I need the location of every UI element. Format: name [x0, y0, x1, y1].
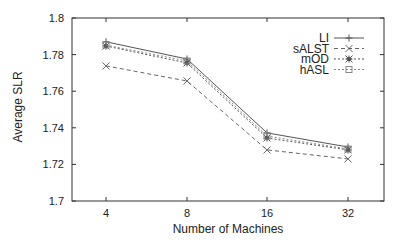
y-axis: 1.71.721.741.761.781.8 [43, 12, 384, 207]
legend-label: hASL [300, 63, 330, 77]
y-tick-label: 1.76 [43, 85, 64, 97]
series-sALST [103, 62, 352, 162]
y-tick-label: 1.78 [43, 49, 64, 61]
star-marker-core [104, 44, 108, 48]
x-tick-label: 32 [342, 207, 354, 219]
x-tick-label: 8 [184, 207, 190, 219]
y-tick-label: 1.8 [49, 12, 64, 24]
y-tick-label: 1.74 [43, 122, 64, 134]
x-axis-label: Number of Machines [173, 222, 284, 236]
plot-frame [72, 18, 384, 201]
star-marker-core [347, 57, 351, 61]
x-tick-label: 4 [103, 207, 109, 219]
line-chart: 1.71.721.741.761.781.8 481632 LIsALSTmOD… [0, 0, 400, 246]
legend: LIsALSTmODhASL [293, 31, 364, 77]
y-tick-label: 1.7 [49, 195, 64, 207]
y-axis-label: Average SLR [11, 71, 25, 142]
plot-border [72, 18, 384, 201]
y-tick-label: 1.72 [43, 158, 64, 170]
plus-marker-icon [346, 35, 353, 42]
x-tick-label: 16 [261, 207, 273, 219]
